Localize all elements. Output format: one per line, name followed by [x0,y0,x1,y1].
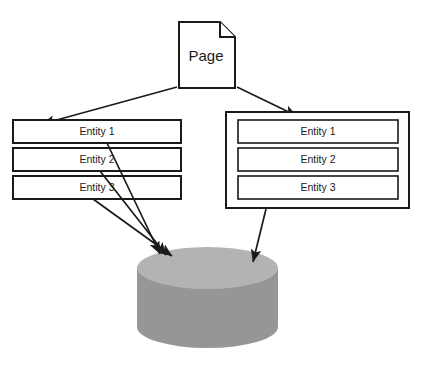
left-entity-label-2: Entity 2 [79,153,114,165]
diagram-svg: Page Entity 1 Entity 2 Entity 3 [0,0,421,365]
page-node[interactable]: Page [179,22,235,88]
right-entity-label-2: Entity 2 [300,153,335,165]
right-entity-group[interactable]: Entity 1 Entity 2 Entity 3 [226,112,409,208]
diagram-canvas: Page Entity 1 Entity 2 Entity 3 [0,0,421,365]
database-cylinder-top [137,247,278,289]
right-entity-label-1: Entity 1 [300,125,335,137]
right-entity-item-1[interactable]: Entity 1 [238,120,398,143]
left-entity-item-1[interactable]: Entity 1 [13,120,181,143]
left-entity-item-3[interactable]: Entity 3 [13,176,181,199]
right-entity-label-3: Entity 3 [300,181,335,193]
right-entity-item-3[interactable]: Entity 3 [238,176,398,199]
connector-page-to-left-group [42,87,177,124]
page-fold-corner-icon [220,22,235,37]
connector-left-entity-3-to-database [93,199,172,256]
left-entity-group: Entity 1 Entity 2 Entity 3 [13,120,181,199]
right-entity-item-2[interactable]: Entity 2 [238,148,398,171]
left-entity-item-2[interactable]: Entity 2 [13,148,181,171]
page-label: Page [188,47,223,64]
left-entity-label-1: Entity 1 [79,125,114,137]
database-cylinder[interactable] [137,247,278,348]
